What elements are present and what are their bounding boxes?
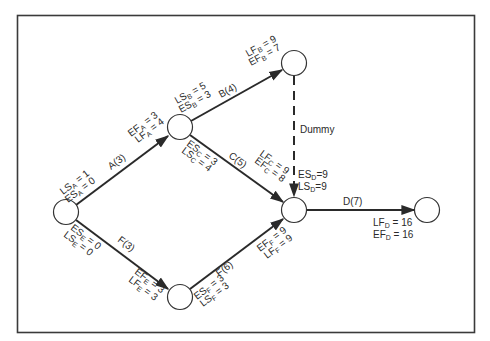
activity-a-arrow xyxy=(76,136,168,205)
ls-d-label: LSD=9 xyxy=(298,181,327,193)
activity-c-label: C(5) xyxy=(227,150,249,170)
activity-d-label: D(7) xyxy=(343,196,362,207)
node-5 xyxy=(168,285,193,310)
activity-e-label: F(3) xyxy=(116,234,137,254)
node-4 xyxy=(282,198,307,223)
network-diagram: A(3) B(4) C(5) D(7) F(3) F(6) Dummy LSA … xyxy=(0,0,490,341)
lf-d-label: LFD = 16 xyxy=(373,217,413,229)
node-3 xyxy=(282,51,307,76)
node-6 xyxy=(415,198,440,223)
node-1 xyxy=(54,200,79,225)
node-2 xyxy=(168,115,193,140)
dummy-label: Dummy xyxy=(300,124,334,135)
es-d-label: ESD=9 xyxy=(298,169,328,181)
ef-d-label: EFD = 16 xyxy=(373,229,414,241)
